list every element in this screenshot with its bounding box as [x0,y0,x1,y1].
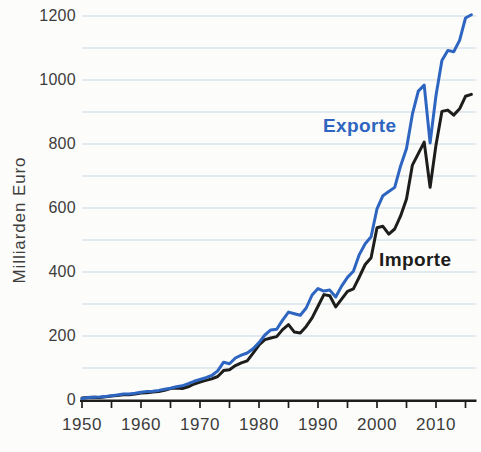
y-axis-title: Milliarden Euro [10,157,30,284]
importe-series-label: Importe [379,249,451,271]
trade-chart-figure: 0200400600800100012001950196019701980199… [0,0,481,452]
chart-canvas [0,0,481,452]
exporte-line [82,15,471,399]
exporte-series-label: Exporte [323,115,397,137]
importe-line [82,94,471,398]
